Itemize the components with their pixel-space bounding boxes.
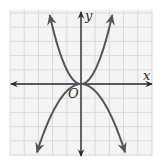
origin-label: O bbox=[68, 86, 79, 101]
coordinate-graph: x y O bbox=[0, 0, 162, 164]
x-axis-label: x bbox=[143, 68, 151, 83]
y-axis-label: y bbox=[84, 8, 93, 23]
